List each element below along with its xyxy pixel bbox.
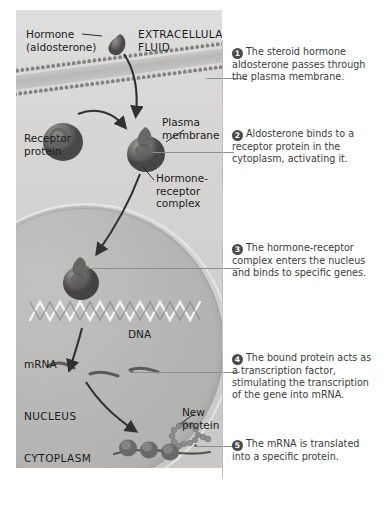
step-1-text: The steroid hormone aldosterone passes t… [232,46,365,82]
step-3: 3The hormone-receptor complex enters the… [232,242,380,279]
step3-rule [222,242,223,304]
step-5-text: The mRNA is translated into a specific p… [232,438,359,462]
label-cytoplasm: CYTOPLASM [24,452,91,465]
step5-rule [222,438,223,478]
leader-dot-step4 [130,370,133,373]
label-hormone: Hormone (aldosterone) [26,28,96,53]
step-1-marker: 1 [232,48,243,59]
step-3-text: The hormone-receptor complex enters the … [232,242,366,278]
label-plasma-membrane: Plasma membrane [162,116,219,141]
diagram-panel: Hormone (aldosterone) EXTRACELLULAR FLUI… [16,10,222,468]
step2-rule [222,128,223,190]
mrna-strands-icon [44,340,194,388]
label-mrna: mRNA [24,358,57,371]
step-5-marker: 5 [232,440,243,451]
label-receptor-protein: Receptor protein [24,132,71,157]
leader-line-step4 [132,372,240,373]
label-dna: DNA [128,328,151,341]
hormone-molecule-icon [104,32,130,58]
step-1: 1The steroid hormone aldosterone passes … [232,46,380,83]
step-2-marker: 2 [232,130,243,141]
step-4-text: The bound protein acts as a transcriptio… [232,352,371,400]
step-2-text: Aldosterone binds to a receptor protein … [232,128,354,164]
label-hormone-receptor-complex: Hormone- receptor complex [156,172,208,210]
step-2: 2Aldosterone binds to a receptor protein… [232,128,380,165]
label-nucleus: NUCLEUS [24,410,77,423]
steroid-hormone-figure: Hormone (aldosterone) EXTRACELLULAR FLUI… [0,0,385,505]
dna-strand-icon [28,298,208,324]
complex-in-nucleus-icon [60,252,104,302]
step4-rule [222,352,223,426]
step-4: 4The bound protein acts as a transcripti… [232,352,380,402]
step1-rule [222,46,223,108]
leader-line-step3 [88,268,240,269]
leader-dot-step3 [86,266,89,269]
label-extracellular-fluid: EXTRACELLULAR FLUID [138,28,222,53]
leader-dot-step5 [194,444,197,447]
label-new-protein: New protein [182,406,219,431]
step-3-marker: 3 [232,244,243,255]
step-4-marker: 4 [232,354,243,365]
leader-dot-step2 [150,150,153,153]
step-5: 5The mRNA is translated into a specific … [232,438,380,463]
